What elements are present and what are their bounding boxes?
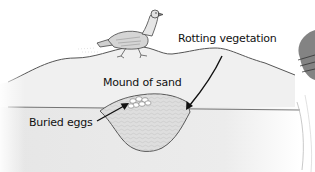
label-buried-eggs: Buried eggs: [29, 117, 93, 128]
label-mound-of-sand: Mound of sand: [103, 77, 182, 88]
diagram-canvas: Rotting vegetation Mound of sand Buried …: [0, 0, 315, 172]
label-rotting-vegetation: Rotting vegetation: [178, 33, 277, 44]
